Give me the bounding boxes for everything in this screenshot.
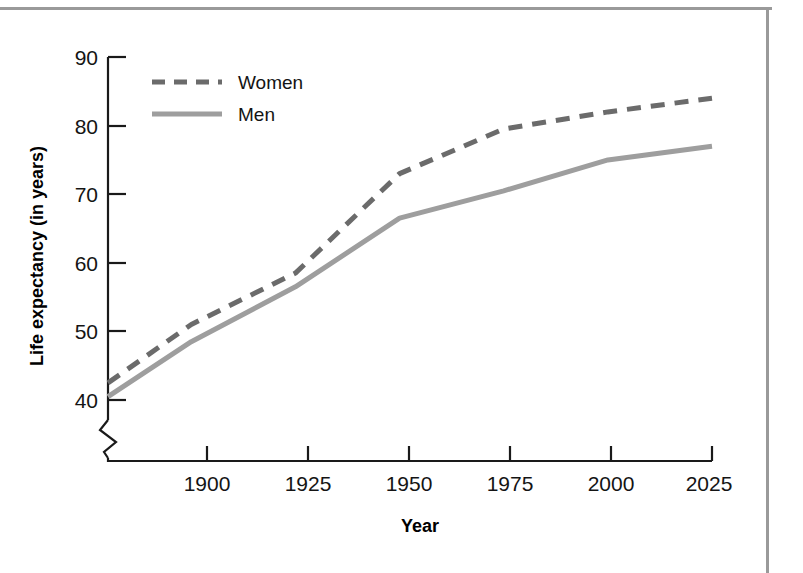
x-tick-label-1975: 1975 xyxy=(487,472,534,495)
x-axis-ticks xyxy=(207,446,712,461)
y-tick-label-70: 70 xyxy=(75,183,98,206)
y-axis-ticks xyxy=(108,57,126,400)
figure-root: 90 80 70 60 50 40 1900 1925 1950 1975 20… xyxy=(0,0,803,573)
life-expectancy-chart: 90 80 70 60 50 40 1900 1925 1950 1975 20… xyxy=(0,0,803,573)
x-tick-label-2000: 2000 xyxy=(588,472,635,495)
x-tick-label-1900: 1900 xyxy=(184,472,231,495)
y-tick-label-50: 50 xyxy=(75,320,98,343)
y-tick-labels: 90 80 70 60 50 40 xyxy=(75,46,98,412)
legend-label-men: Men xyxy=(238,104,275,125)
x-tick-label-2025: 2025 xyxy=(686,472,733,495)
legend-label-women: Women xyxy=(238,72,303,93)
x-tick-label-1925: 1925 xyxy=(285,472,332,495)
y-tick-label-60: 60 xyxy=(75,252,98,275)
series-line-men xyxy=(108,146,712,396)
y-tick-label-90: 90 xyxy=(75,46,98,69)
y-axis xyxy=(100,57,116,462)
y-axis-title: Life expectancy (in years) xyxy=(27,146,47,366)
legend: Women Men xyxy=(152,72,303,125)
x-tick-labels: 1900 1925 1950 1975 2000 2025 xyxy=(184,472,733,495)
x-axis-title: Year xyxy=(401,516,439,536)
y-tick-label-40: 40 xyxy=(75,389,98,412)
y-tick-label-80: 80 xyxy=(75,115,98,138)
x-tick-label-1950: 1950 xyxy=(386,472,433,495)
y-axis-break-symbol xyxy=(100,420,116,458)
